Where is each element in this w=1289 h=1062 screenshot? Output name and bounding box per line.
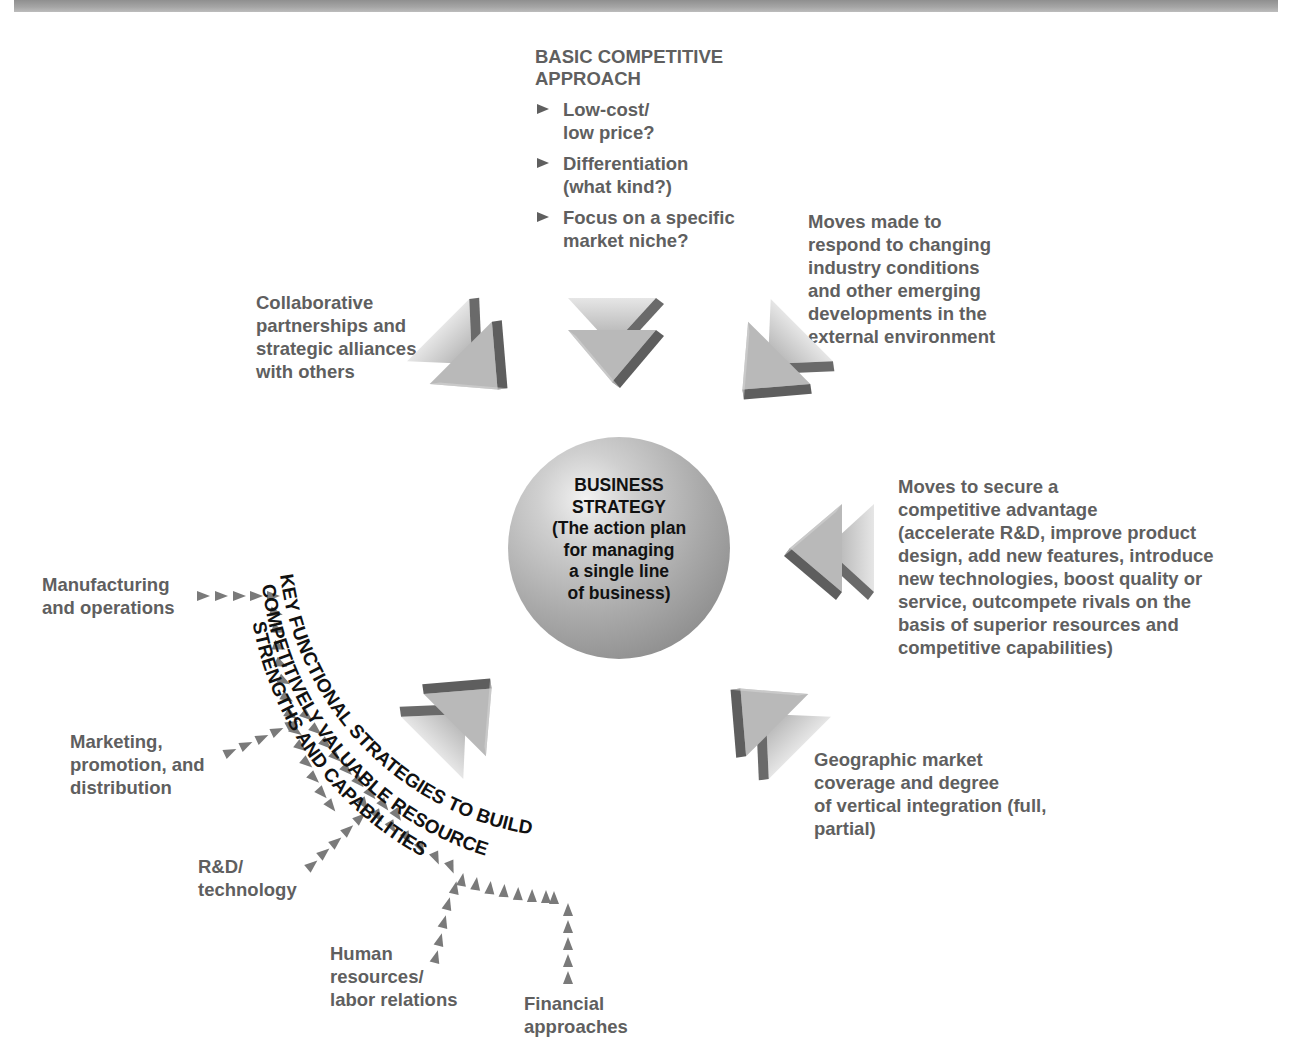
- arrow-top-right-icon: [707, 299, 839, 431]
- arrow-right-icon: [784, 504, 874, 600]
- arrow-bottom-left-icon: [395, 647, 527, 779]
- hr-dotted-arrows-icon: [430, 872, 538, 964]
- arrow-top-down-icon: [568, 298, 664, 388]
- diagram-graphics: KEY FUNCTIONAL STRATEGIES TO BUILD COMPE…: [0, 0, 1289, 1062]
- arrow-top-left-icon: [407, 293, 539, 425]
- arrow-bottom-right-icon: [699, 653, 831, 785]
- financial-dotted-arrows-icon: [541, 890, 573, 984]
